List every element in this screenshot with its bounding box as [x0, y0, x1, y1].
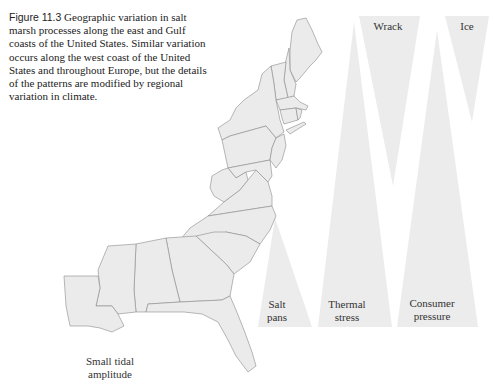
label-ice: Ice — [452, 20, 482, 33]
state-mississippi — [96, 244, 136, 314]
label-wrack: Wrack — [363, 20, 413, 33]
long-island — [286, 122, 306, 134]
label-small-tidal-amplitude: Small tidal amplitude — [78, 355, 142, 381]
state-maine — [290, 18, 322, 82]
label-thermal-stress: Thermal stress — [320, 298, 374, 324]
label-salt-pans: Salt pans — [262, 298, 292, 324]
state-connecticut — [280, 108, 298, 124]
state-florida — [146, 296, 256, 372]
label-consumer-pressure: Consumer pressure — [398, 297, 466, 323]
figure-graphic — [0, 0, 495, 390]
